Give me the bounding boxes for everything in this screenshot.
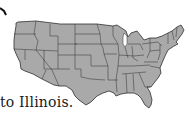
arrow-icon: [0, 8, 6, 15]
caption-text: to Illinois.: [0, 94, 73, 110]
lake-michigan: [123, 33, 127, 47]
